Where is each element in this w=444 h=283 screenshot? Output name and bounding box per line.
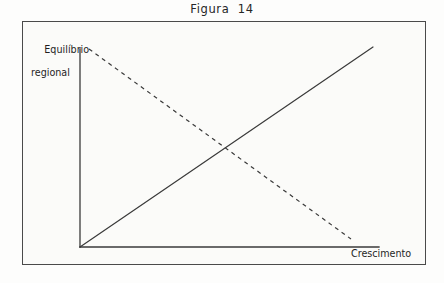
y-axis-label-line2: regional — [26, 67, 80, 79]
ascending-solid-line — [80, 47, 373, 247]
descending-dashed-line — [89, 49, 351, 239]
y-axis-label: Equilíbrio regional — [26, 32, 80, 102]
plot-canvas — [23, 22, 427, 266]
plot-frame: Equilíbrio regional Crescimento — [22, 21, 426, 265]
figure-container: Figura 14 Equilíbrio regional Cresciment… — [0, 0, 444, 283]
figure-title: Figura 14 — [0, 2, 444, 16]
y-axis-label-line1: Equilíbrio — [44, 44, 89, 55]
x-axis-label: Crescimento — [351, 248, 411, 260]
